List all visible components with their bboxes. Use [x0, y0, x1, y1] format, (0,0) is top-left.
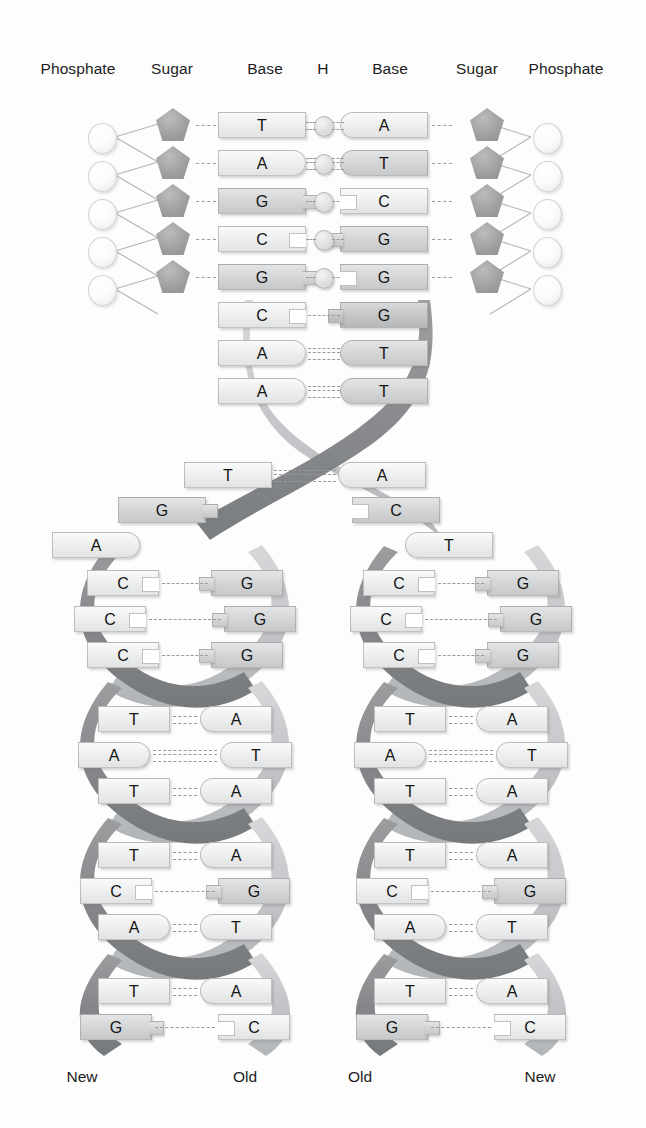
- base-letter: G: [212, 643, 282, 669]
- base-t-block: T: [374, 842, 446, 868]
- base-c-block: C: [218, 302, 306, 328]
- base-t-block: T: [98, 706, 170, 732]
- sugar-base-link: [196, 277, 216, 278]
- base-letter: A: [477, 779, 547, 805]
- phosphate-circle-left-2: [88, 199, 117, 230]
- base-letter: C: [357, 879, 427, 905]
- base-letter: C: [75, 607, 145, 633]
- hydrogen-bond-1: [149, 619, 221, 620]
- sugar-base-link: [432, 163, 452, 164]
- phosphate-circle-right-3: [533, 237, 562, 268]
- phosphate-circle-left-4: [88, 275, 117, 306]
- base-g-block: G: [487, 642, 559, 668]
- base-a-block: A: [340, 112, 428, 138]
- sugar-pentagon-right-2: [470, 184, 504, 217]
- hydrogen-atom-circle-2: [314, 192, 334, 213]
- base-g-block: G: [340, 226, 428, 252]
- base-letter: G: [119, 498, 205, 524]
- base-t-block: T: [98, 978, 170, 1004]
- dna-replication-figure: PhosphateSugarBaseHBaseSugarPhosphate: [0, 0, 646, 1128]
- base-letter: G: [225, 607, 295, 633]
- hydrogen-bond-1: [306, 239, 316, 240]
- base-g-block: G: [487, 570, 559, 596]
- base-letter: T: [99, 779, 169, 805]
- base-letter: C: [219, 1015, 289, 1041]
- base-letter: A: [341, 113, 427, 139]
- base-letter: T: [201, 915, 271, 941]
- base-c-block: C: [350, 606, 422, 632]
- base-a-block: A: [476, 978, 548, 1004]
- base-letter: T: [185, 463, 271, 489]
- base-t-block: T: [374, 778, 446, 804]
- sugar-base-link: [196, 239, 216, 240]
- hydrogen-bond-1: [425, 619, 497, 620]
- base-a-block: A: [200, 778, 272, 804]
- hydrogen-bond-3: [308, 386, 340, 398]
- base-g-block: G: [211, 570, 283, 596]
- base-letter: G: [495, 879, 565, 905]
- base-a-block: A: [78, 742, 150, 768]
- hydrogen-bond-3: [429, 750, 493, 762]
- base-letter: A: [477, 843, 547, 869]
- base-t-block: T: [405, 532, 493, 558]
- base-c-block: C: [80, 878, 152, 904]
- hydrogen-bond-1: [431, 891, 491, 892]
- base-letter: G: [341, 265, 427, 291]
- strand-label-old-0-right: Old: [233, 1068, 257, 1086]
- base-letter: G: [488, 571, 558, 597]
- base-letter: A: [201, 979, 271, 1005]
- hydrogen-atom-circle-4: [314, 268, 334, 289]
- base-letter: A: [219, 379, 305, 405]
- base-letter: T: [375, 979, 445, 1005]
- hydrogen-bond-2: [449, 852, 473, 860]
- sugar-base-link: [196, 201, 216, 202]
- base-a-block: A: [338, 462, 426, 488]
- sugar-pentagon-left-0: [156, 108, 190, 141]
- hydrogen-bond-2: [173, 924, 197, 932]
- hydrogen-bond-3: [306, 158, 316, 170]
- base-a-block: A: [98, 914, 170, 940]
- base-letter: C: [351, 607, 421, 633]
- sugar-pentagon-right-0: [470, 108, 504, 141]
- phosphate-circle-left-3: [88, 237, 117, 268]
- sugar-base-link: [196, 125, 216, 126]
- base-letter: T: [477, 915, 547, 941]
- base-a-block: A: [200, 978, 272, 1004]
- base-t-block: T: [98, 842, 170, 868]
- hydrogen-bond-1: [162, 655, 208, 656]
- base-letter: T: [341, 379, 427, 405]
- sugar-pentagon-left-2: [156, 184, 190, 217]
- base-t-block: T: [218, 112, 306, 138]
- hydrogen-bond-2: [306, 122, 316, 130]
- base-letter: C: [88, 643, 158, 669]
- hydrogen-bond-2: [449, 716, 473, 724]
- hydrogen-atom-circle-3: [314, 230, 334, 251]
- base-t-block: T: [374, 706, 446, 732]
- phosphate-circle-right-1: [533, 161, 562, 192]
- hydrogen-bond-1: [438, 583, 484, 584]
- base-g-block: G: [218, 878, 290, 904]
- base-letter: A: [99, 915, 169, 941]
- base-letter: G: [219, 189, 305, 215]
- base-letter: A: [219, 151, 305, 177]
- base-t-block: T: [340, 340, 428, 366]
- hydrogen-bond-2: [173, 988, 197, 996]
- base-g-block: G: [224, 606, 296, 632]
- column-header-sugar-1: Sugar: [151, 60, 193, 78]
- base-c-block: C: [87, 570, 159, 596]
- base-letter: A: [477, 979, 547, 1005]
- hydrogen-bond-2: [173, 716, 197, 724]
- base-g-block: G: [494, 878, 566, 904]
- base-letter: T: [221, 743, 291, 769]
- base-letter: C: [81, 879, 151, 905]
- hydrogen-atom-circle-1: [314, 154, 334, 175]
- column-header-base-4: Base: [372, 60, 408, 78]
- base-letter: A: [477, 707, 547, 733]
- base-letter: T: [375, 707, 445, 733]
- phosphate-circle-right-0: [533, 123, 562, 154]
- hydrogen-atom-circle-0: [314, 116, 334, 137]
- sugar-pentagon-left-1: [156, 146, 190, 179]
- base-t-block: T: [340, 150, 428, 176]
- base-a-block: A: [218, 150, 306, 176]
- base-letter: C: [364, 571, 434, 597]
